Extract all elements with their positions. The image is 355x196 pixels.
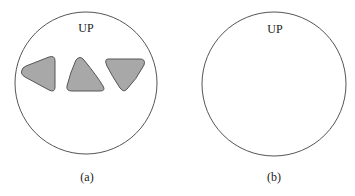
panel-a: UP (a) (15, 12, 157, 184)
caption-b: (b) (267, 170, 281, 184)
panel-b: UP (b) (202, 12, 346, 184)
up-label-a: UP (78, 21, 94, 35)
rounded-triangle-up (67, 58, 104, 92)
rounded-triangle-down (106, 59, 145, 91)
diagram-canvas: UP (a) UP (b) (0, 0, 355, 196)
caption-a: (a) (80, 170, 93, 184)
rounded-triangle-left (21, 57, 55, 92)
up-label-b: UP (267, 22, 283, 36)
